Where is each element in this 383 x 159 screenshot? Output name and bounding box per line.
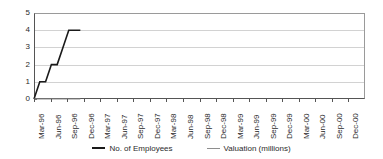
- x-tick-label: Jun-00: [319, 115, 327, 139]
- chart-legend: No. of Employees Valuation (millions): [0, 141, 383, 155]
- legend-label-employees: No. of Employees: [109, 144, 172, 153]
- x-tick-mark: [282, 99, 283, 102]
- legend-item-employees[interactable]: No. of Employees: [92, 144, 172, 153]
- x-tick-mark: [166, 99, 167, 102]
- x-tick-mark: [348, 99, 349, 102]
- x-tick-label: Mar-97: [104, 114, 112, 139]
- x-tick-label: Mar-99: [237, 114, 245, 139]
- x-tick-mark: [133, 99, 134, 102]
- legend-item-valuation[interactable]: Valuation (millions): [207, 144, 291, 153]
- x-tick-mark: [216, 99, 217, 102]
- x-tick-label: Dec-96: [88, 113, 96, 139]
- x-tick-label: Sep-97: [137, 113, 145, 139]
- x-tick-mark: [332, 99, 333, 102]
- x-tick-mark: [200, 99, 201, 102]
- y-axis: 012345: [4, 0, 30, 159]
- x-tick-mark: [117, 99, 118, 102]
- x-tick-label: Dec-98: [220, 113, 228, 139]
- x-tick-mark: [266, 99, 267, 102]
- y-tick-label: 1: [8, 78, 30, 86]
- x-tick-mark: [67, 99, 68, 102]
- x-tick-mark: [84, 99, 85, 102]
- x-tick-label: Dec-99: [286, 113, 294, 139]
- legend-label-valuation: Valuation (millions): [224, 144, 291, 153]
- x-tick-mark: [150, 99, 151, 102]
- x-tick-label: Sep-98: [204, 113, 212, 139]
- x-tick-mark: [100, 99, 101, 102]
- x-tick-label: Jun-99: [253, 115, 261, 139]
- x-tick-mark: [34, 99, 35, 102]
- x-tick-mark: [183, 99, 184, 102]
- y-tick-label: 4: [8, 26, 30, 34]
- x-tick-label: Sep-96: [71, 113, 79, 139]
- y-tick-label: 2: [8, 61, 30, 69]
- x-tick-label: Dec-97: [154, 113, 162, 139]
- x-tick-label: Jun-96: [55, 115, 63, 139]
- x-tick-mark: [233, 99, 234, 102]
- x-tick-label: Dec-00: [352, 113, 360, 139]
- x-tick-mark: [299, 99, 300, 102]
- x-tick-label: Jun-98: [187, 115, 195, 139]
- y-tick-label: 5: [8, 9, 30, 17]
- x-tick-label: Sep-99: [270, 113, 278, 139]
- x-axis: Mar-96Jun-96Sep-96Dec-96Mar-97Jun-97Sep-…: [34, 99, 365, 145]
- x-tick-mark: [249, 99, 250, 102]
- legend-swatch-employees: [92, 147, 105, 149]
- x-tick-label: Jun-97: [121, 115, 129, 139]
- legend-swatch-valuation: [207, 148, 220, 149]
- x-tick-mark: [51, 99, 52, 102]
- x-tick-label: Mar-98: [170, 114, 178, 139]
- x-tick-label: Mar-96: [38, 114, 46, 139]
- series-layer: [34, 13, 365, 100]
- series-line-employees: [34, 30, 80, 99]
- y-tick-label: 3: [8, 43, 30, 51]
- x-tick-label: Sep-00: [336, 113, 344, 139]
- chart-container: 012345 Mar-96Jun-96Sep-96Dec-96Mar-97Jun…: [0, 0, 383, 159]
- y-tick-label: 0: [8, 95, 30, 103]
- x-tick-label: Mar-00: [303, 114, 311, 139]
- x-tick-mark: [315, 99, 316, 102]
